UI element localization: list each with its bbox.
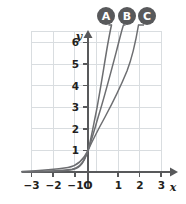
grid-lines	[32, 31, 162, 172]
series-badge-b: B	[118, 7, 136, 25]
x-axis-arrowhead	[170, 168, 178, 177]
curve-series-a	[22, 25, 112, 172]
curve-group	[22, 25, 139, 172]
y-tick-label: 4	[72, 80, 79, 92]
y-tick-label: 5	[72, 58, 79, 70]
y-tick-label: 3	[72, 101, 79, 113]
curve-series-c	[22, 25, 139, 172]
x-tick-label: 1	[115, 179, 122, 191]
x-tick-label: 2	[136, 179, 143, 191]
x-tick-label: −1	[67, 179, 83, 191]
x-tick-labels: −3 −2 −1 1 2 3	[24, 179, 166, 191]
series-badge-a: A	[97, 7, 115, 25]
series-badge-c: C	[138, 7, 156, 25]
y-axis-label: y	[75, 30, 84, 43]
badge-label: A	[102, 10, 111, 23]
y-tick-label: 2	[72, 123, 79, 135]
exponential-curves-figure: 6 5 4 3 2 1 −3 −2 −1 1 2 3 O y x A B	[0, 0, 186, 204]
y-axis	[83, 30, 93, 188]
x-tick-label: −2	[46, 179, 62, 191]
x-tick-label: 3	[158, 179, 165, 191]
origin-label: O	[83, 179, 92, 192]
badge-label: B	[123, 10, 131, 23]
y-tick-label: 1	[72, 144, 79, 156]
y-tick-labels: 6 5 4 3 2 1	[72, 36, 79, 156]
graph-canvas: 6 5 4 3 2 1 −3 −2 −1 1 2 3 O y x A B	[0, 0, 186, 204]
x-tick-label: −3	[24, 179, 40, 191]
x-axis-label: x	[169, 181, 177, 194]
badge-label: C	[143, 10, 151, 23]
